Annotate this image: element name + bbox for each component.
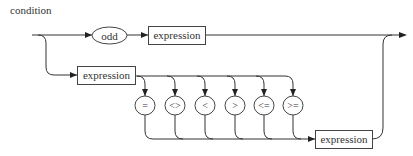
merge-lt bbox=[205, 115, 213, 139]
arrow-ge bbox=[290, 89, 296, 96]
exit-arrow bbox=[399, 32, 407, 38]
return-line bbox=[372, 35, 392, 139]
arrow-lt bbox=[202, 89, 208, 96]
expression-label-3: expression bbox=[320, 133, 368, 145]
operator-lt-label: < bbox=[202, 100, 208, 111]
keyword-odd-label: odd bbox=[101, 30, 118, 42]
operator-ge-label: >= bbox=[287, 100, 299, 111]
merge-ge bbox=[293, 115, 301, 139]
merge-ne bbox=[175, 115, 183, 139]
arrow-to-odd bbox=[85, 32, 92, 38]
operator-ne-label: <> bbox=[169, 100, 181, 111]
arrow-le bbox=[261, 89, 267, 96]
merge-le bbox=[264, 115, 272, 139]
arrow-to-expression-1 bbox=[141, 32, 148, 38]
arrow-to-expression-2 bbox=[70, 72, 77, 78]
expression-label-1: expression bbox=[153, 29, 201, 41]
branch-down-line bbox=[38, 35, 77, 75]
railroad-diagram: odd expression expression = <> < > <= >=… bbox=[0, 0, 413, 156]
arrow-to-expression-3 bbox=[308, 136, 315, 142]
arrow-eq bbox=[142, 89, 148, 96]
operator-gt-label: > bbox=[232, 100, 238, 111]
arrow-ne bbox=[172, 89, 178, 96]
operator-le-label: <= bbox=[258, 100, 270, 111]
expression-label-2: expression bbox=[83, 69, 131, 81]
operator-eq-label: = bbox=[142, 100, 148, 111]
arrow-gt bbox=[232, 89, 238, 96]
merge-gt bbox=[235, 115, 243, 139]
merge-eq bbox=[145, 115, 153, 139]
